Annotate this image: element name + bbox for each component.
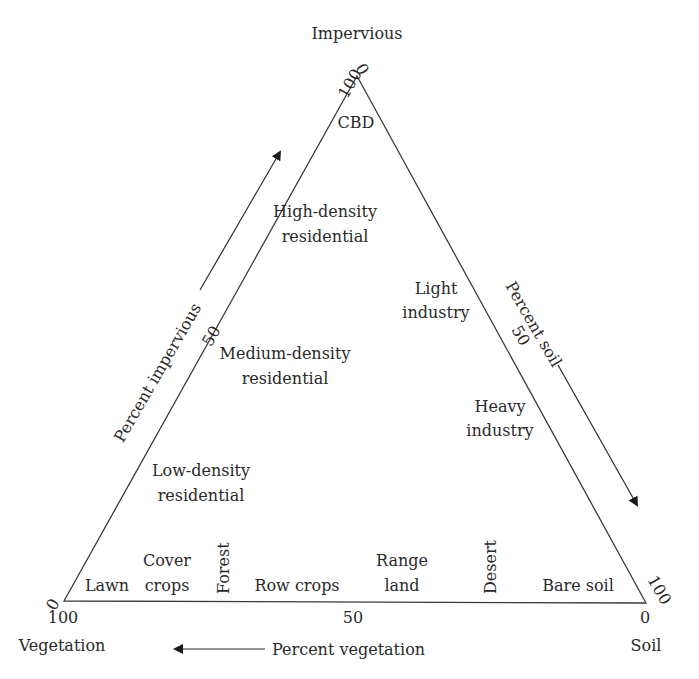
impervious-arrow bbox=[200, 152, 280, 290]
region-light-industry-2: industry bbox=[402, 303, 469, 323]
axis-label-percent-vegetation: Percent vegetation bbox=[272, 640, 425, 660]
region-row-crops: Row crops bbox=[254, 576, 339, 596]
region-range-land-1: Range bbox=[376, 551, 428, 571]
tick-vegetation-0: 0 bbox=[640, 608, 650, 628]
region-range-land-2: land bbox=[384, 576, 419, 596]
region-lawn: Lawn bbox=[85, 576, 129, 596]
region-bare-soil: Bare soil bbox=[542, 576, 614, 596]
soil-arrow bbox=[558, 365, 637, 505]
region-light-industry-1: Light bbox=[415, 279, 458, 299]
region-high-density-residential-1: High-density bbox=[273, 202, 377, 222]
region-high-density-residential-2: residential bbox=[282, 227, 369, 247]
region-heavy-industry-1: Heavy bbox=[474, 397, 525, 417]
region-low-density-residential-2: residential bbox=[158, 486, 245, 506]
triangle-outline bbox=[64, 76, 646, 603]
region-cbd: CBD bbox=[338, 113, 375, 133]
region-low-density-residential-1: Low-density bbox=[152, 461, 250, 481]
ternary-diagram: Impervious Vegetation Soil 100 0 50 50 0… bbox=[0, 0, 699, 679]
region-forest: Forest bbox=[214, 542, 234, 594]
tick-vegetation-100: 100 bbox=[48, 608, 79, 628]
region-cover-crops-2: crops bbox=[145, 576, 190, 596]
region-heavy-industry-2: industry bbox=[466, 421, 533, 441]
vertex-label-vegetation: Vegetation bbox=[19, 636, 106, 656]
region-medium-density-residential-1: Medium-density bbox=[220, 344, 351, 364]
tick-vegetation-50: 50 bbox=[343, 608, 363, 628]
vertex-label-soil: Soil bbox=[631, 636, 662, 656]
region-medium-density-residential-2: residential bbox=[242, 369, 329, 389]
region-desert: Desert bbox=[481, 540, 501, 594]
region-cover-crops-1: Cover bbox=[143, 551, 191, 571]
vertex-label-impervious: Impervious bbox=[311, 24, 402, 44]
